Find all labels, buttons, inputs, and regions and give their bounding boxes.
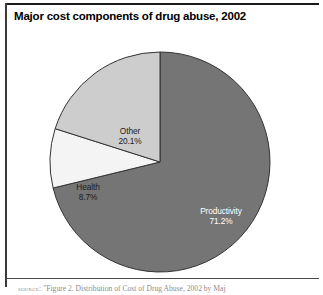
pie-label-productivity-name: Productivity bbox=[178, 206, 264, 216]
pie-label-health-name: Health bbox=[60, 182, 116, 192]
pie-chart: Other 20.1% Health 8.7% Productivity 71.… bbox=[6, 30, 319, 276]
pie-label-other: Other 20.1% bbox=[102, 126, 158, 146]
pie-label-health: Health 8.7% bbox=[60, 182, 116, 202]
figure-title: Major cost components of drug abuse, 200… bbox=[14, 10, 314, 23]
figure-top-rule bbox=[6, 3, 319, 5]
figure-container: Major cost components of drug abuse, 200… bbox=[0, 0, 323, 295]
figure-source-text: "Figure 2. Distribution of Cost of Drug … bbox=[43, 284, 225, 293]
pie-label-other-value: 20.1% bbox=[102, 136, 158, 146]
pie-label-other-name: Other bbox=[102, 126, 158, 136]
figure-source-caption: source: "Figure 2. Distribution of Cost … bbox=[18, 284, 318, 293]
pie-label-productivity-value: 71.2% bbox=[178, 216, 264, 226]
figure-source-prefix: source: bbox=[18, 284, 41, 293]
pie-label-health-value: 8.7% bbox=[60, 192, 116, 202]
figure-bottom-rule bbox=[6, 278, 319, 279]
pie-chart-svg bbox=[6, 30, 319, 276]
pie-label-productivity: Productivity 71.2% bbox=[178, 206, 264, 226]
